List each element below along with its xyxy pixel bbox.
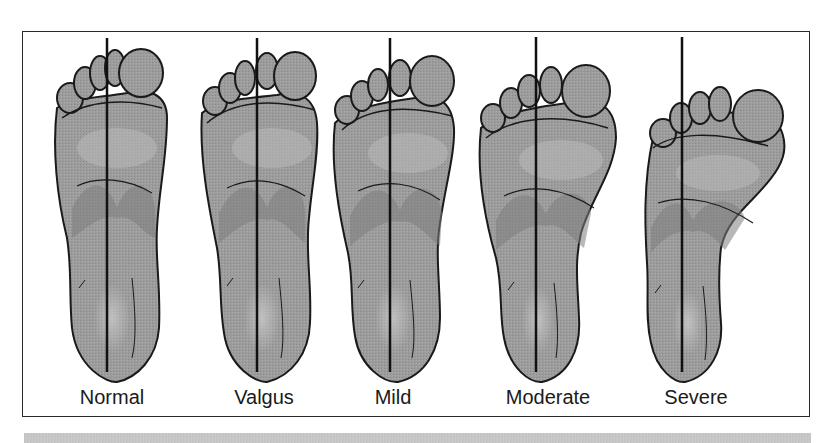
feet-illustration <box>0 0 825 443</box>
foot-mild <box>334 56 454 382</box>
foot-valgus <box>201 52 317 382</box>
label-valgus: Valgus <box>234 386 294 409</box>
caption-bar <box>24 433 811 443</box>
foot-severe <box>645 87 784 382</box>
label-severe: Severe <box>664 386 727 409</box>
foot-normal <box>55 49 167 382</box>
label-moderate: Moderate <box>506 386 591 409</box>
label-normal: Normal <box>80 386 144 409</box>
foot-moderate <box>480 65 616 382</box>
label-mild: Mild <box>375 386 412 409</box>
